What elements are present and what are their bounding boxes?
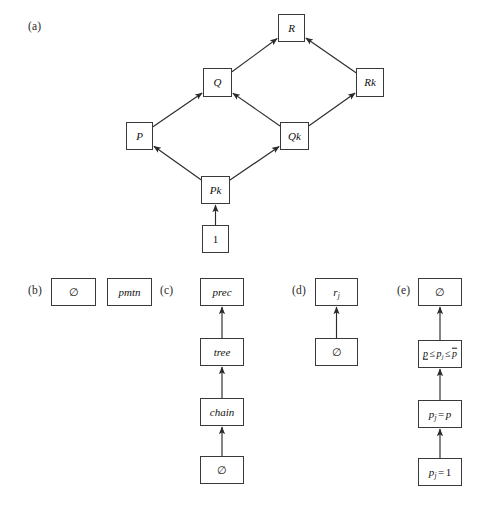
node-label-e-pj1: pj=1	[429, 466, 452, 477]
node-label-P: P	[136, 130, 143, 141]
node-Q: Q	[203, 68, 232, 97]
node-label-e-empty: ∅	[435, 286, 445, 297]
node-c-chain: chain	[200, 398, 244, 426]
node-label-Rk: Rk	[364, 77, 376, 88]
node-label-c-chain: chain	[210, 406, 234, 417]
node-label-c-empty: ∅	[217, 464, 227, 475]
figure-canvas: (a)RQRkPQkPk1(b)∅pmtn(c)prectreechain∅(d…	[0, 0, 487, 516]
edge-Q-to-R	[232, 39, 277, 72]
node-c-empty: ∅	[200, 456, 244, 484]
edge-Pk-to-Qk	[230, 146, 279, 180]
panel-label-c: (c)	[160, 284, 173, 296]
node-e-pj1: pj=1	[418, 458, 462, 486]
edge-Rk-to-R	[306, 38, 356, 73]
node-label-Pk: Pk	[210, 184, 222, 195]
node-label-e-range: p≤pj≤p	[423, 348, 457, 360]
node-label-e-pjp: pj=p	[429, 408, 452, 419]
panel-label-e: (e)	[397, 284, 410, 296]
node-label-one: 1	[213, 233, 219, 244]
node-label-b-pmtn: pmtn	[119, 286, 141, 297]
node-label-c-tree: tree	[214, 346, 231, 357]
node-R: R	[278, 14, 305, 42]
node-label-Qk: Qk	[288, 130, 301, 141]
node-one: 1	[202, 225, 229, 253]
node-c-tree: tree	[200, 338, 244, 366]
edge-Qk-to-Rk	[309, 93, 355, 126]
node-e-empty: ∅	[418, 278, 462, 306]
node-label-d-rj: rj	[333, 286, 340, 297]
panel-label-a: (a)	[28, 20, 41, 32]
node-P: P	[126, 122, 153, 150]
node-Pk: Pk	[201, 176, 230, 204]
panel-label-d: (d)	[292, 284, 306, 296]
node-label-Q: Q	[214, 77, 222, 88]
panel-label-b: (b)	[28, 284, 42, 296]
node-e-pjp: pj=p	[418, 400, 462, 428]
edge-layer	[0, 0, 487, 516]
node-e-range: p≤pj≤p	[418, 340, 462, 368]
edge-Qk-to-Q	[233, 93, 280, 126]
node-b-empty: ∅	[51, 278, 96, 306]
node-Qk: Qk	[280, 122, 309, 150]
node-b-pmtn: pmtn	[107, 278, 152, 306]
node-label-c-prec: prec	[212, 286, 231, 297]
edge-P-to-Q	[153, 93, 202, 127]
edge-Pk-to-P	[154, 146, 201, 180]
node-d-empty: ∅	[315, 338, 358, 366]
node-Rk: Rk	[356, 68, 384, 97]
node-label-b-empty: ∅	[69, 286, 79, 297]
node-c-prec: prec	[200, 278, 244, 306]
node-label-R: R	[288, 22, 295, 33]
node-d-rj: rj	[315, 278, 358, 306]
node-label-d-empty: ∅	[332, 346, 342, 357]
